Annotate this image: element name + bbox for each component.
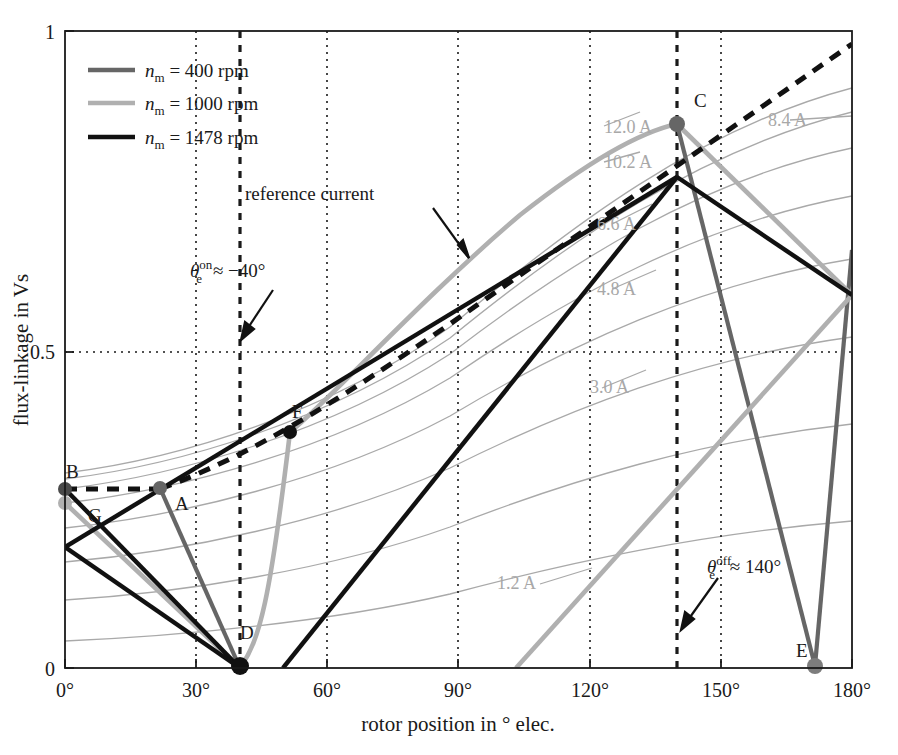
xtick-label-150: 150°	[702, 679, 740, 701]
annotation-reference-current: reference current	[245, 183, 375, 204]
point-F	[283, 425, 297, 439]
theta-off-value: ≈ 140°	[730, 556, 781, 577]
legend-eq-1000: = 1000 rpm	[169, 93, 258, 114]
legend-n-1478: n	[145, 127, 155, 148]
theta-off-sub: e	[709, 567, 715, 582]
point-label-D: D	[240, 622, 254, 643]
ytick-label-0: 0	[45, 658, 55, 680]
legend-sub-1000: m	[155, 103, 165, 118]
point-A	[153, 481, 167, 495]
flux-linkage-chart: 0 0.5 1 0° 30° 60° 90° 120° 150° 180° ro…	[0, 0, 898, 755]
current-label-3.0A: 3.0 A	[590, 377, 629, 397]
current-label-1.2A: 1.2 A	[497, 573, 536, 593]
theta-on-value: ≈ −40°	[213, 260, 266, 281]
xtick-label-30: 30°	[182, 679, 210, 701]
x-axis-label: rotor position in ° elec.	[361, 712, 554, 736]
point-label-C: C	[694, 90, 707, 111]
figure-root: 0 0.5 1 0° 30° 60° 90° 120° 150° 180° ro…	[0, 0, 898, 755]
current-label-4.8A: 4.8 A	[597, 279, 636, 299]
xtick-label-180: 180°	[833, 679, 871, 701]
legend-n-1000: n	[145, 93, 155, 114]
point-D	[231, 657, 249, 675]
xtick-label-0: 0°	[56, 679, 74, 701]
current-label-12.0A: 12.0 A	[604, 117, 652, 137]
point-label-G: G	[88, 505, 102, 526]
legend-n-400: n	[145, 60, 155, 81]
current-label-8.4A: 8.4 A	[768, 110, 807, 130]
legend-sub-1478: m	[155, 137, 165, 152]
point-label-A: A	[175, 493, 189, 514]
xtick-label-90: 90°	[444, 679, 472, 701]
point-label-E: E	[796, 640, 808, 661]
xtick-label-60: 60°	[313, 679, 341, 701]
ytick-label-0.5: 0.5	[30, 341, 55, 363]
theta-on-sub: e	[196, 271, 202, 286]
point-label-B: B	[66, 461, 79, 482]
current-label-6.6A: 6.6 A	[597, 214, 636, 234]
legend-eq-400: = 400 rpm	[169, 60, 249, 81]
legend-sub-400: m	[155, 70, 165, 85]
ytick-label-1: 1	[45, 21, 55, 43]
current-label-10.2A: 10.2 A	[604, 152, 652, 172]
point-E	[807, 658, 823, 674]
legend-eq-1478: = 1478 rpm	[169, 127, 258, 148]
xtick-label-120: 120°	[571, 679, 609, 701]
point-C	[669, 116, 685, 132]
point-label-F: F	[292, 401, 303, 422]
y-axis-label: flux-linkage in Vs	[9, 274, 33, 426]
